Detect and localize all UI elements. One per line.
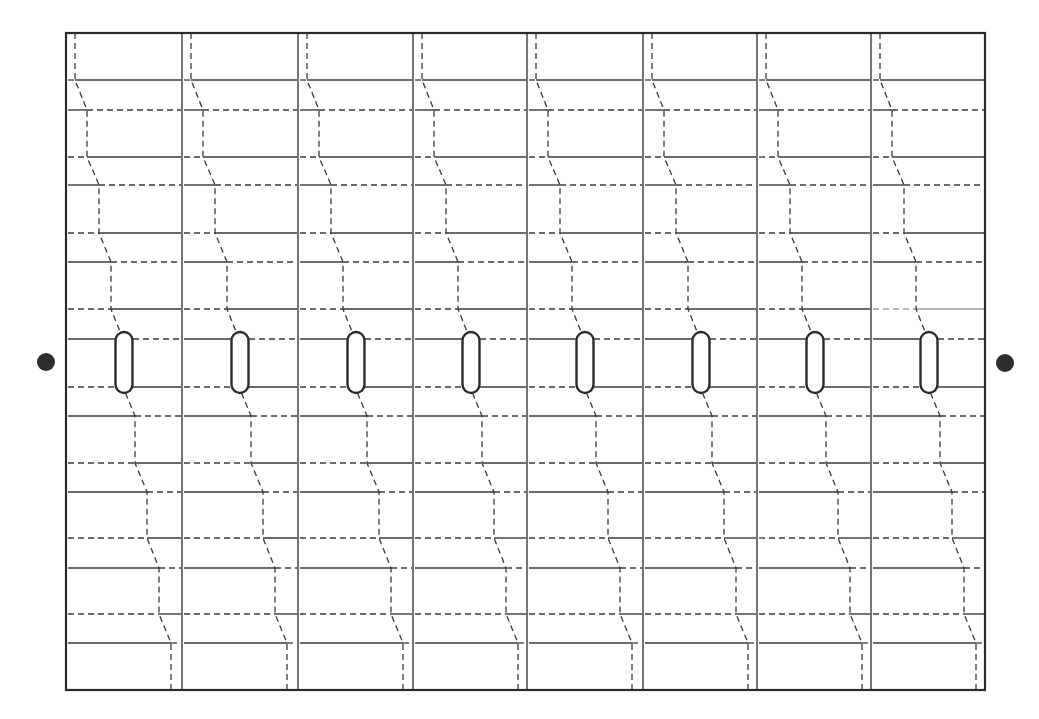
slot-opening xyxy=(116,332,133,393)
left-end-dot xyxy=(37,353,55,371)
slot-opening xyxy=(348,332,365,393)
end-markers xyxy=(37,353,1014,372)
slot-opening xyxy=(232,332,249,393)
right-end-dot xyxy=(996,354,1014,372)
slot-opening xyxy=(921,332,938,393)
panel-layout-diagram xyxy=(0,0,1039,719)
slot-opening xyxy=(693,332,710,393)
slot-opening xyxy=(463,332,480,393)
slot-opening xyxy=(807,332,824,393)
staggered-joint-lines xyxy=(75,33,976,690)
outer-frame xyxy=(66,33,985,690)
column-dividers xyxy=(182,33,871,690)
slot-opening xyxy=(577,332,594,393)
